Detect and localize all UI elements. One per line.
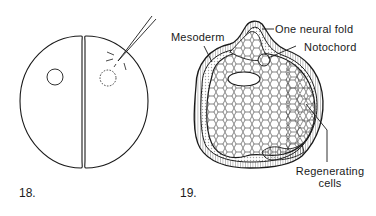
diagram-stage: One neural fold Mesoderm Notochord Regen… [0,0,376,216]
label-regenerating: Regenerating cells [290,165,370,189]
cavity-oval [228,72,260,86]
micro-needle-icon [118,16,156,61]
figure-19-number: 19. [180,187,197,199]
label-neural-fold: One neural fold [275,23,353,35]
label-notochord: Notochord [304,41,357,53]
left-nucleus [47,69,63,85]
label-regenerating-line2: cells [290,177,370,189]
figure-18-number: 18. [19,187,36,199]
right-blastomere-outline [85,36,148,168]
left-blastomere-outline [20,36,82,168]
label-mesoderm: Mesoderm [171,31,225,43]
right-nucleus-dashed [100,70,116,86]
label-regenerating-line1: Regenerating [290,165,370,177]
figure-18-two-cell-embryo [20,16,156,168]
